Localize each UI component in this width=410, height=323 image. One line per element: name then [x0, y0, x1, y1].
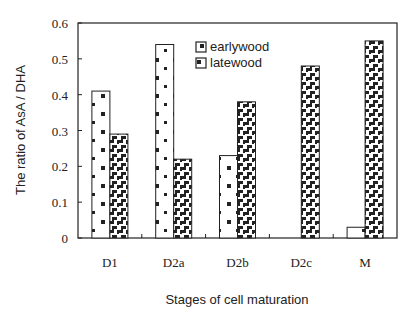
bar-latewood-D2c — [301, 66, 319, 238]
y-tick-label: 0 — [62, 231, 69, 246]
x-tick-label: D2b — [226, 255, 248, 270]
x-axis-label: Stages of cell maturation — [165, 292, 308, 307]
legend-item-earlywood: earlywood — [196, 39, 269, 54]
bar-earlywood-D1 — [92, 91, 110, 238]
bar-latewood-D2a — [174, 159, 192, 238]
bar-latewood-M — [365, 41, 383, 238]
bar-series — [92, 41, 383, 238]
y-tick-label: 0.4 — [52, 88, 69, 103]
x-tick-label: D2a — [163, 255, 185, 270]
x-tick-label: D2c — [290, 255, 312, 270]
y-tick-label: 0.5 — [52, 52, 68, 67]
x-tick-label: M — [359, 255, 371, 270]
legend-label: earlywood — [210, 39, 269, 54]
bar-latewood-D1 — [110, 134, 128, 238]
bar-latewood-D2b — [238, 102, 256, 238]
y-tick-label: 0.1 — [52, 195, 68, 210]
x-axis: D1D2aD2bD2cM — [102, 234, 371, 270]
legend-item-latewood: latewood — [196, 55, 262, 70]
y-tick-label: 0.3 — [52, 124, 68, 139]
bar-earlywood-D2b — [220, 156, 238, 238]
y-tick-label: 0.2 — [52, 159, 68, 174]
x-tick-label: D1 — [102, 255, 118, 270]
y-tick-label: 0.6 — [52, 16, 69, 31]
bar-earlywood-D2a — [156, 45, 174, 239]
legend: earlywood latewood — [196, 39, 269, 70]
y-axis-label: The ratio of AsA / DHA — [13, 65, 28, 195]
bar-chart: 00.10.20.30.40.50.6 D1D2aD2bD2cM earlywo… — [0, 0, 410, 323]
legend-label: latewood — [210, 55, 262, 70]
bar-earlywood-M — [347, 227, 365, 238]
